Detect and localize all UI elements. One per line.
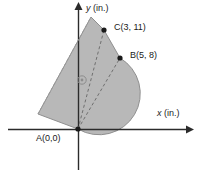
point-b-marker xyxy=(117,55,122,60)
y-axis-arrowhead xyxy=(75,2,83,10)
y-axis-unit-text: (in.) xyxy=(93,3,109,13)
y-axis-symbol: y xyxy=(86,3,91,13)
geometry-figure: C(3, 11) B(5, 8) A(0,0) x (in.) y (in.) xyxy=(0,0,205,175)
point-a-label: A(0,0) xyxy=(36,133,61,143)
point-b-label: B(5, 8) xyxy=(130,50,157,60)
centroid-marker-dot xyxy=(81,79,84,82)
x-axis-unit-text: (in.) xyxy=(164,108,180,118)
shaded-region xyxy=(38,17,140,135)
figure-canvas xyxy=(0,0,205,175)
point-a-marker xyxy=(75,126,80,131)
point-c-marker xyxy=(101,27,106,32)
point-c-label: C(3, 11) xyxy=(114,22,146,32)
x-axis-symbol: x xyxy=(157,108,162,118)
x-axis-arrowhead xyxy=(186,126,194,134)
x-axis-label: x (in.) xyxy=(157,108,180,118)
y-axis-label: y (in.) xyxy=(86,3,109,13)
